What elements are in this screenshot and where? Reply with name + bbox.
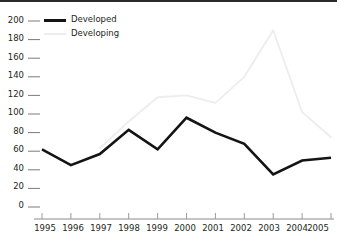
ytick-label: 20	[2, 182, 24, 191]
series-line-developing	[100, 30, 331, 148]
legend-swatch-developing	[44, 33, 66, 35]
xtick-label: 2005	[305, 224, 331, 233]
legend-label-developed: Developed	[71, 14, 117, 24]
ytick-label: 160	[2, 53, 24, 62]
ytick-label: 180	[2, 34, 24, 43]
ytick-label: 120	[2, 90, 24, 99]
xtick-label: 1995	[32, 224, 58, 233]
ytick-label: 80	[2, 127, 24, 136]
line-chart: 200 180 160 140 120 100 80 60 40 20 0 19…	[0, 0, 337, 238]
xtick-label: 2003	[256, 224, 282, 233]
ytick-label: 140	[2, 71, 24, 80]
ytick-label: 100	[2, 108, 24, 117]
ytick-label: 60	[2, 145, 24, 154]
xtick-label: 2001	[200, 224, 226, 233]
x-tick-marks	[42, 213, 331, 219]
xtick-label: 2000	[172, 224, 198, 233]
xtick-label: 1996	[60, 224, 86, 233]
xtick-label: 1997	[88, 224, 114, 233]
xtick-label: 1998	[116, 224, 142, 233]
ytick-label: 0	[2, 201, 24, 210]
xtick-label: 2002	[228, 224, 254, 233]
legend-label-developing: Developing	[71, 28, 119, 38]
xtick-label: 1999	[144, 224, 170, 233]
ytick-label: 40	[2, 164, 24, 173]
series-line-developed	[42, 118, 331, 175]
plot-area	[0, 0, 337, 238]
legend-swatch-developed	[44, 19, 66, 22]
y-tick-marks	[28, 21, 40, 207]
ytick-label: 200	[2, 16, 24, 25]
